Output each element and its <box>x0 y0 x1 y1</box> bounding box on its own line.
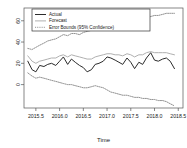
y-tick-label: 40 <box>15 39 21 45</box>
forecast-chart: 2015.52016.02016.52017.02017.52018.02018… <box>0 0 187 148</box>
x-tick-label: 2016.0 <box>52 113 68 119</box>
x-tick-label: 2018.5 <box>170 113 186 119</box>
y-tick-label: 60 <box>15 18 21 24</box>
series-forecast <box>28 52 175 64</box>
x-axis-title: Time <box>97 137 111 143</box>
legend-label-1: Forecast <box>49 18 68 23</box>
x-tick-label: 2017.0 <box>99 113 115 119</box>
y-tick-label: 20 <box>15 60 21 66</box>
series-error-bound-lower <box>28 73 175 106</box>
x-tick-label: 2015.5 <box>28 113 44 119</box>
legend-label-2: Error Bounds (95% Confidence) <box>49 25 115 30</box>
x-tick-label: 2018.0 <box>147 113 163 119</box>
x-tick-label: 2017.5 <box>123 113 139 119</box>
legend-label-0: Actual <box>49 12 62 17</box>
x-tick-label: 2016.5 <box>75 113 91 119</box>
y-tick-label: 0 <box>15 83 21 86</box>
chart-canvas: 2015.52016.02016.52017.02017.52018.02018… <box>0 0 187 148</box>
